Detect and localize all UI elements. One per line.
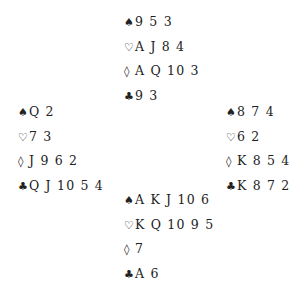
cards: A 6 [135, 266, 160, 281]
north-diamonds: ◊A Q 10 3 [124, 59, 200, 84]
club-icon: ♣ [18, 175, 29, 200]
diamond-icon: ◊ [18, 150, 29, 175]
cards: 9 3 [135, 88, 158, 103]
west-diamonds: ◊J 9 6 2 [18, 149, 104, 174]
north-spades: ♠9 5 3 [124, 10, 200, 35]
west-clubs: ♣Q J 10 5 4 [18, 174, 104, 199]
spade-icon: ♠ [124, 11, 135, 36]
club-icon: ♣ [124, 85, 135, 110]
cards: K 8 7 2 [237, 178, 291, 193]
north-hearts: ♡A J 8 4 [124, 35, 200, 60]
cards: J 9 6 2 [29, 153, 78, 168]
east-spades: ♠8 7 4 [226, 100, 291, 125]
east-clubs: ♣K 8 7 2 [226, 174, 291, 199]
cards: K 8 5 4 [237, 153, 291, 168]
east-hearts: ♡6 2 [226, 125, 291, 150]
south-spades: ♠A K J 10 6 [124, 188, 214, 213]
south-clubs: ♣A 6 [124, 262, 214, 286]
south-hearts: ♡K Q 10 9 5 [124, 213, 214, 238]
east-hand: ♠8 7 4 ♡6 2 ◊K 8 5 4 ♣K 8 7 2 [226, 100, 291, 198]
cards: 9 5 3 [135, 14, 173, 29]
east-diamonds: ◊K 8 5 4 [226, 149, 291, 174]
west-hand: ♠Q 2 ♡7 3 ◊J 9 6 2 ♣Q J 10 5 4 [18, 100, 104, 198]
cards: 7 3 [29, 129, 52, 144]
diamond-icon: ◊ [226, 150, 237, 175]
north-hand: ♠9 5 3 ♡A J 8 4 ◊A Q 10 3 ♣9 3 [124, 10, 200, 108]
spade-icon: ♠ [124, 189, 135, 214]
west-spades: ♠Q 2 [18, 100, 104, 125]
cards: Q 2 [29, 104, 55, 119]
spade-icon: ♠ [226, 101, 237, 126]
west-hearts: ♡7 3 [18, 125, 104, 150]
south-hand: ♠A K J 10 6 ♡K Q 10 9 5 ◊7 ♣A 6 [124, 188, 214, 286]
cards: A K J 10 6 [135, 192, 210, 207]
cards: Q J 10 5 4 [29, 178, 104, 193]
cards: A Q 10 3 [135, 63, 200, 78]
diamond-icon: ◊ [124, 60, 135, 85]
heart-icon: ♡ [18, 126, 29, 151]
heart-icon: ♡ [124, 36, 135, 61]
heart-icon: ♡ [226, 126, 237, 151]
cards: K Q 10 9 5 [135, 217, 214, 232]
club-icon: ♣ [226, 175, 237, 200]
diamond-icon: ◊ [124, 238, 135, 263]
club-icon: ♣ [124, 263, 135, 286]
south-diamonds: ◊7 [124, 237, 214, 262]
cards: 7 [135, 241, 144, 256]
spade-icon: ♠ [18, 101, 29, 126]
cards: A J 8 4 [135, 39, 185, 54]
heart-icon: ♡ [124, 214, 135, 239]
cards: 6 2 [237, 129, 260, 144]
cards: 8 7 4 [237, 104, 275, 119]
north-clubs: ♣9 3 [124, 84, 200, 109]
